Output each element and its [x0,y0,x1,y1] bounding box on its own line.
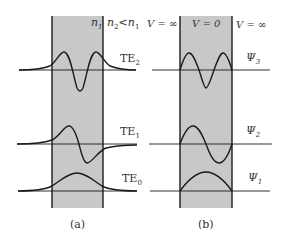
mode-label-te2: TE2 [120,52,140,67]
well-slab-b [180,16,232,208]
waveguide-diagram [0,0,287,248]
potential-center-label: V = 0 [192,18,220,29]
state-label-psi1: Ψ1 [248,171,262,186]
core-slab-a [52,16,103,208]
index-relation-label: n2<n1 [107,16,139,31]
state-label-psi2: Ψ2 [246,124,260,139]
mode-label-te0: TE0 [122,172,142,187]
caption-b: (b) [198,218,214,231]
potential-left-label: V = ∞ [147,18,177,29]
state-label-psi3: Ψ3 [246,51,260,66]
refractive-index-label: n1 [91,16,103,31]
potential-right-label: V = ∞ [236,19,266,30]
caption-a: (a) [70,218,85,231]
mode-label-te1: TE1 [120,125,140,140]
